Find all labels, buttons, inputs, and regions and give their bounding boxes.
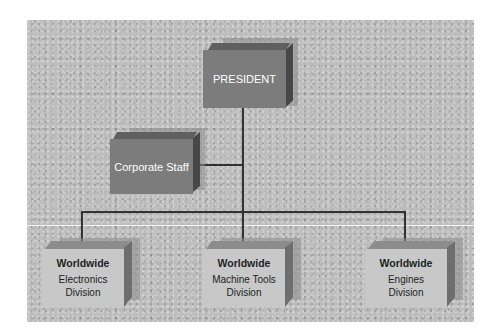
highlight-line xyxy=(27,225,474,226)
president-trunk-line xyxy=(242,108,244,212)
president-label: PRESIDENT xyxy=(213,73,276,85)
division-title: Worldwide xyxy=(57,257,110,270)
division-name-line2: Division xyxy=(65,286,100,299)
division-name-line1: Machine Tools xyxy=(212,273,276,286)
division-name-line2: Division xyxy=(388,286,423,299)
corporate-staff-label: Corporate Staff xyxy=(114,161,188,173)
division-title: Worldwide xyxy=(218,257,271,270)
division-name-line2: Division xyxy=(226,286,261,299)
division-name-line1: Engines xyxy=(388,273,424,286)
division-title: Worldwide xyxy=(380,257,433,270)
division-name-line1: Electronics xyxy=(59,273,108,286)
